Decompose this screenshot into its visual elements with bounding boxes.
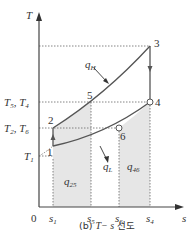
point-label-4: 4 — [155, 96, 161, 108]
area-q25 — [53, 102, 91, 207]
caption: (b) T− s 선도 — [79, 220, 135, 230]
arrow-3-4-icon — [148, 66, 153, 72]
y-tick-t2-t6: T2, T6 — [4, 122, 29, 136]
label-ql: qL — [103, 160, 113, 174]
point-label-5: 5 — [87, 89, 93, 101]
x-tick-s1: s1 — [49, 212, 57, 226]
ts-diagram: T s 0 T5, T4 T2, T6 T1 s1 s5 s6 s4 1 2 3… — [0, 0, 194, 230]
label-qh: qH — [85, 58, 97, 72]
x-axis-label: s — [182, 212, 186, 224]
state-point-4 — [147, 99, 153, 105]
point-label-1: 1 — [47, 146, 53, 158]
origin-label: 0 — [31, 212, 37, 224]
y-axis-label: T — [26, 9, 33, 21]
point-label-6: 6 — [120, 130, 126, 142]
x-axis-arrow-icon — [175, 204, 184, 210]
y-tick-t5-t4: T5, T4 — [4, 96, 29, 110]
area-q46 — [119, 102, 150, 207]
point-label-3: 3 — [154, 37, 160, 49]
y-axis-arrow-icon — [36, 12, 42, 21]
point-label-2: 2 — [48, 114, 54, 126]
x-tick-s4: s4 — [146, 212, 154, 226]
y-tick-t1: T1 — [24, 150, 34, 164]
